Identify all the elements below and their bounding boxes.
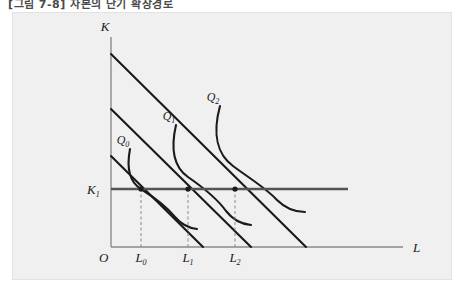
figure-container: K L O K1: [12, 12, 452, 280]
y-axis-label: K: [100, 19, 111, 34]
isocost-line-1: [111, 156, 203, 247]
k1-subscript: 1: [96, 190, 100, 199]
x-tick-label-l0: L0: [134, 250, 146, 267]
svg-text:K1: K1: [86, 182, 100, 199]
figure-caption: [그림 7-8] 자본의 단기 확장경로: [8, 0, 173, 11]
isoquant-curves-group: [129, 106, 305, 229]
axes-group: [111, 37, 403, 247]
isoquant-label-q1: Q1: [163, 109, 176, 125]
x-axis-label: L: [412, 240, 420, 255]
isoquant-label-q0: Q0: [117, 133, 130, 149]
tangency-point-0: [138, 186, 143, 191]
x-tick-label-l2: L2: [228, 250, 240, 267]
x-tick-labels-group: L0 L1 L2: [134, 250, 240, 267]
tangency-point-1: [185, 186, 190, 191]
isoquant-curve-q2: [216, 106, 305, 212]
isoquant-isocost-chart: K L O K1: [13, 13, 453, 281]
origin-label: O: [99, 250, 109, 265]
x-tick-label-l1: L1: [181, 250, 193, 267]
tangency-point-2: [232, 186, 237, 191]
isocost-lines-group: [111, 54, 306, 247]
isoquant-label-q2: Q2: [207, 90, 220, 106]
isoquant-labels-group: Q0 Q1 Q2: [117, 90, 220, 149]
k1-axis-label: K1: [86, 182, 100, 199]
isocost-line-3: [111, 54, 306, 247]
